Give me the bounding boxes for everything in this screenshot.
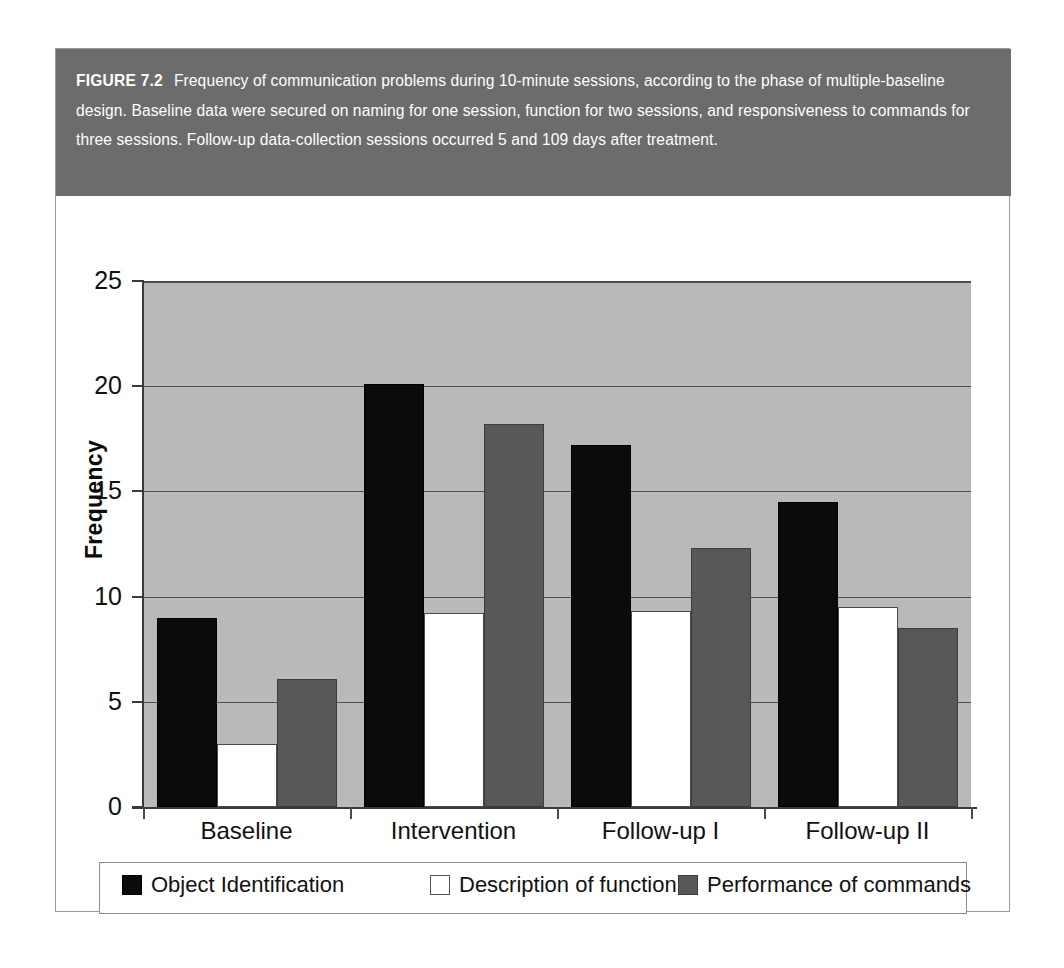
y-tick-mark-0 [132, 806, 143, 808]
plot-top-border [143, 281, 971, 283]
figure-caption-band: FIGURE 7.2Frequency of communication pro… [56, 49, 1011, 196]
bar-baseline-performance-of-commands [277, 679, 337, 807]
bar-follow-up-ii-object-identification [778, 502, 838, 807]
legend-swatch-icon-object-identification [122, 875, 142, 895]
figure-caption-body: Frequency of communication problems duri… [76, 72, 970, 148]
x-tick-mark-edge-0 [143, 807, 145, 819]
x-axis-label-follow-up-ii: Follow-up II [718, 818, 1018, 844]
legend-label: Performance of commands [707, 874, 971, 896]
chart-panel: 0510152025 Frequency BaselineInterventio… [56, 196, 1011, 913]
bar-follow-up-i-object-identification [571, 445, 631, 807]
bar-follow-up-ii-performance-of-commands [898, 628, 958, 807]
chart-legend: Object IdentificationDescription of func… [99, 862, 967, 914]
y-tick-mark-10 [132, 596, 143, 598]
bar-intervention-description-of-function [424, 613, 484, 807]
x-tick-mark-2 [557, 807, 559, 819]
gridline-20 [143, 386, 971, 387]
y-tick-mark-20 [132, 385, 143, 387]
legend-label: Object Identification [151, 874, 344, 896]
gridline-10 [143, 597, 971, 598]
y-tick-label-0: 0 [56, 794, 122, 819]
x-tick-mark-1 [350, 807, 352, 819]
bar-follow-up-i-description-of-function [631, 611, 691, 807]
bar-follow-up-ii-description-of-function [838, 607, 898, 807]
figure-number-label: FIGURE 7.2 [76, 72, 163, 89]
legend-item-object-identification[interactable]: Object Identification [122, 874, 344, 896]
y-axis-title: Frequency [81, 380, 108, 620]
y-tick-label-25: 25 [56, 268, 122, 293]
figure-frame: FIGURE 7.2Frequency of communication pro… [55, 48, 1010, 912]
x-axis-line [132, 807, 977, 809]
y-tick-mark-25 [132, 280, 143, 282]
y-tick-mark-15 [132, 490, 143, 492]
legend-item-performance-of-commands[interactable]: Performance of commands [678, 874, 971, 896]
legend-swatch-icon-performance-of-commands [678, 875, 698, 895]
gridline-15 [143, 491, 971, 492]
legend-label: Description of function [459, 874, 677, 896]
x-tick-mark-edge-4 [971, 807, 973, 819]
bar-follow-up-i-performance-of-commands [691, 548, 751, 807]
bar-baseline-object-identification [157, 618, 217, 807]
bar-intervention-performance-of-commands [484, 424, 544, 807]
figure-caption-text: FIGURE 7.2Frequency of communication pro… [76, 66, 985, 155]
y-tick-label-5: 5 [56, 689, 122, 714]
y-tick-mark-5 [132, 701, 143, 703]
legend-item-description-of-function[interactable]: Description of function [430, 874, 677, 896]
bar-intervention-object-identification [364, 384, 424, 807]
legend-swatch-icon-description-of-function [430, 875, 450, 895]
x-tick-mark-3 [764, 807, 766, 819]
plot-area [143, 281, 971, 807]
bar-baseline-description-of-function [217, 744, 277, 807]
y-axis-line [142, 280, 144, 809]
